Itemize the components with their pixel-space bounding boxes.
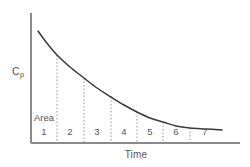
segment-label-5: 5 [138, 127, 162, 137]
y-axis-label: Cp [12, 66, 24, 77]
plot-canvas [0, 0, 250, 167]
segment-label-4: 4 [112, 127, 136, 137]
pharmacokinetic-curve-figure: Cp Time Area 1 2 3 4 5 6 7 [0, 0, 250, 167]
x-axis-label: Time [0, 150, 250, 160]
segment-label-1: 1 [32, 127, 56, 137]
segment-label-7: 7 [193, 127, 217, 137]
segment-label-3: 3 [85, 127, 109, 137]
y-axis-label-base: C [12, 65, 20, 77]
segment-label-2: 2 [58, 127, 82, 137]
area-annotation-label: Area [34, 113, 54, 123]
segment-label-6: 6 [164, 127, 188, 137]
y-axis-label-subscript: p [20, 70, 24, 79]
concentration-decay-curve [38, 31, 222, 130]
